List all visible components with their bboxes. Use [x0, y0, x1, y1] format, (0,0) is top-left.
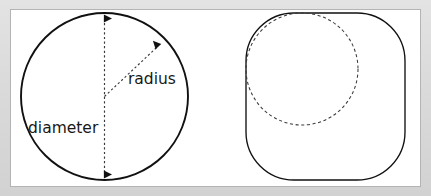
inscribed-dashed-circle [246, 13, 358, 125]
diagram-svg [0, 0, 431, 196]
radius-label: radius [128, 70, 176, 88]
rounded-square-outline [246, 13, 405, 180]
page-canvas: radius diameter [0, 0, 431, 196]
diameter-label: diameter [28, 119, 98, 137]
